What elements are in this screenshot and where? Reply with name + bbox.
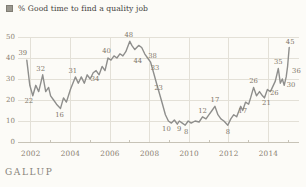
point-label: 35 bbox=[274, 58, 283, 66]
point-label: 36 bbox=[292, 67, 301, 75]
point-label: 31 bbox=[69, 67, 78, 75]
point-label: 8 bbox=[184, 128, 188, 136]
point-label: 17 bbox=[238, 107, 247, 115]
point-label: 17 bbox=[211, 96, 220, 104]
point-label: 12 bbox=[198, 107, 207, 115]
point-label: 21 bbox=[262, 99, 271, 107]
x-axis-label: 2010 bbox=[180, 149, 200, 158]
point-label: 10 bbox=[162, 125, 171, 133]
point-label: 34 bbox=[91, 75, 100, 83]
point-label: 38 bbox=[148, 52, 157, 60]
point-label: 33 bbox=[151, 64, 160, 72]
point-label: 32 bbox=[36, 65, 45, 73]
y-axis-label: 40 bbox=[6, 54, 15, 62]
y-axis-label: 30 bbox=[6, 75, 15, 83]
trend-line-chart: 2002200420062008201020122014010203040503… bbox=[0, 0, 306, 187]
gallup-logo: GALLUP bbox=[5, 167, 53, 177]
point-label: 30 bbox=[287, 81, 296, 89]
x-axis-label: 2002 bbox=[21, 149, 40, 158]
point-label: 44 bbox=[133, 57, 142, 65]
x-axis-label: 2008 bbox=[140, 149, 160, 158]
point-label: 16 bbox=[55, 111, 64, 119]
gallup-chart-card: % Good time to find a quality job 200220… bbox=[0, 0, 306, 187]
x-axis-label: 2014 bbox=[259, 149, 279, 158]
point-label: 45 bbox=[286, 38, 295, 46]
x-axis-label: 2012 bbox=[219, 149, 238, 158]
y-axis-label: 20 bbox=[6, 96, 15, 104]
y-axis-label: 0 bbox=[11, 138, 15, 146]
point-label: 23 bbox=[154, 84, 163, 92]
point-label: 40 bbox=[102, 47, 111, 55]
point-label: 26 bbox=[249, 77, 258, 85]
x-axis-label: 2006 bbox=[100, 149, 120, 158]
point-label: 39 bbox=[19, 49, 28, 57]
point-label: 22 bbox=[24, 97, 33, 105]
point-label: 8 bbox=[226, 128, 230, 136]
y-axis-label: 10 bbox=[6, 117, 15, 125]
y-axis-label: 50 bbox=[6, 33, 15, 41]
point-label: 48 bbox=[124, 31, 133, 39]
point-label: 9 bbox=[177, 125, 181, 133]
x-axis-label: 2004 bbox=[61, 149, 81, 158]
point-label: 26 bbox=[270, 89, 279, 97]
